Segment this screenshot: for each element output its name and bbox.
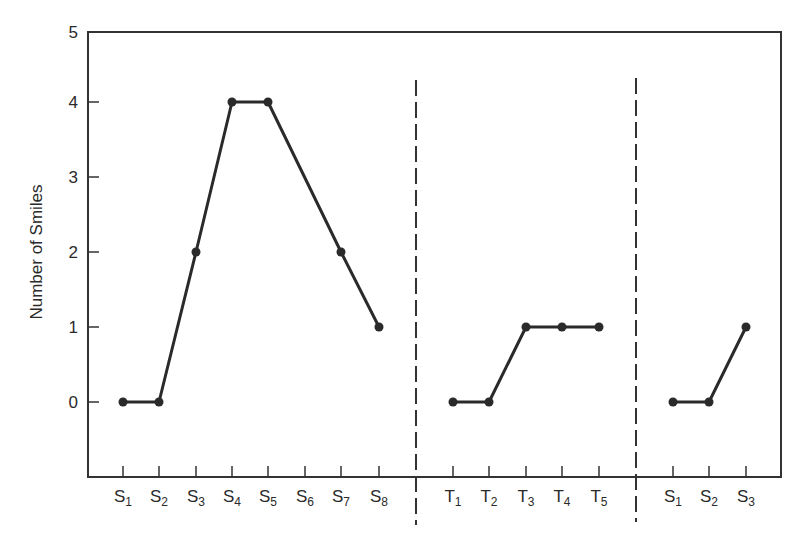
x-tick-S6: S6 [296, 487, 314, 509]
y-tick-0: 0 [69, 393, 78, 412]
y-tick-3: 3 [69, 168, 78, 187]
y-axis-ticks [88, 102, 99, 402]
data-point [742, 323, 751, 332]
x-tick-S1-phase3: S1 [664, 487, 682, 509]
series-line [673, 327, 746, 402]
x-tick-S5: S5 [259, 487, 277, 509]
data-point [155, 398, 164, 407]
x-tick-S2-phase3: S2 [700, 487, 718, 509]
x-tick-T2: T2 [480, 487, 497, 509]
data-point [228, 98, 237, 107]
x-tick-S4: S4 [223, 487, 241, 509]
y-tick-1: 1 [69, 318, 78, 337]
data-point [522, 323, 531, 332]
x-axis-ticks [123, 466, 746, 477]
y-tick-2: 2 [69, 243, 78, 262]
x-tick-T1: T1 [444, 487, 461, 509]
x-tick-S3: S3 [187, 487, 205, 509]
y-tick-5: 5 [69, 23, 78, 42]
data-point [669, 398, 678, 407]
series-layer [119, 98, 751, 407]
x-tick-S2: S2 [150, 487, 168, 509]
x-tick-S7: S7 [332, 487, 350, 509]
series-phase-3-S [669, 323, 751, 407]
data-point [595, 323, 604, 332]
series-phase-1-S [119, 98, 384, 407]
data-point [558, 323, 567, 332]
data-point [264, 98, 273, 107]
x-tick-labels: S1 S2 S3 S4 S5 S6 S7 S8 T1 T2 T3 T4 T5 S… [114, 487, 755, 509]
data-point [119, 398, 128, 407]
data-point [449, 398, 458, 407]
y-tick-4: 4 [69, 93, 78, 112]
x-tick-S3-phase3: S3 [737, 487, 755, 509]
data-point [485, 398, 494, 407]
x-tick-S8: S8 [370, 487, 388, 509]
x-tick-T3: T3 [517, 487, 534, 509]
plot-frame [88, 32, 781, 477]
smiles-line-chart: Number of Smiles 0 1 2 3 4 5 S1 [0, 0, 803, 538]
x-tick-S1: S1 [114, 487, 132, 509]
data-point [192, 248, 201, 257]
series-line [453, 327, 599, 402]
data-point [375, 323, 384, 332]
x-tick-T4: T4 [553, 487, 570, 509]
data-point [337, 248, 346, 257]
x-tick-T5: T5 [590, 487, 607, 509]
y-axis-label: Number of Smiles [27, 184, 46, 319]
data-point [705, 398, 714, 407]
series-phase-2-T [449, 323, 604, 407]
y-tick-labels: 0 1 2 3 4 5 [69, 23, 78, 412]
